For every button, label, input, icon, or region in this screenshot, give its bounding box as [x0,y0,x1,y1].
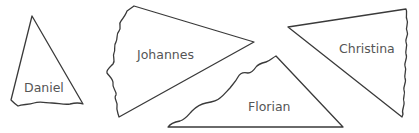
daniel-label: Daniel [24,80,64,95]
piece-daniel: Daniel [11,16,83,106]
florian-label: Florian [248,99,291,114]
triangles-diagram: Daniel Johannes Florian Christina [0,0,419,133]
christina-label: Christina [339,41,395,56]
johannes-label: Johannes [136,47,194,62]
